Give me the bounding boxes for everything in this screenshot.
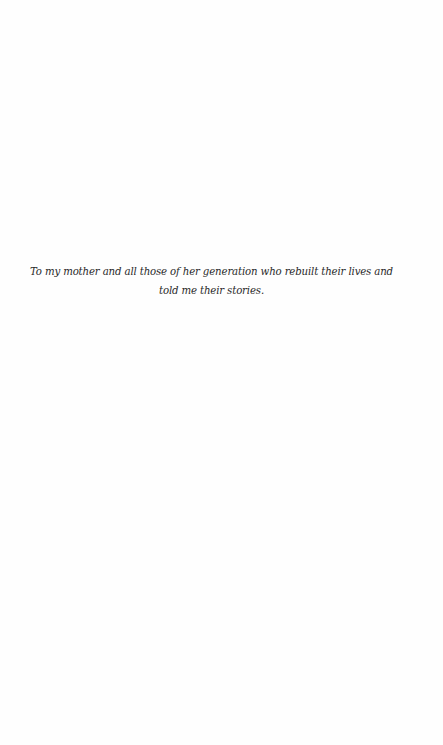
dedication-line-2: told me their stories.: [0, 281, 423, 300]
book-page: To my mother and all those of her genera…: [0, 0, 443, 745]
dedication-line-1: To my mother and all those of her genera…: [0, 262, 423, 281]
dedication-text: To my mother and all those of her genera…: [0, 262, 423, 300]
